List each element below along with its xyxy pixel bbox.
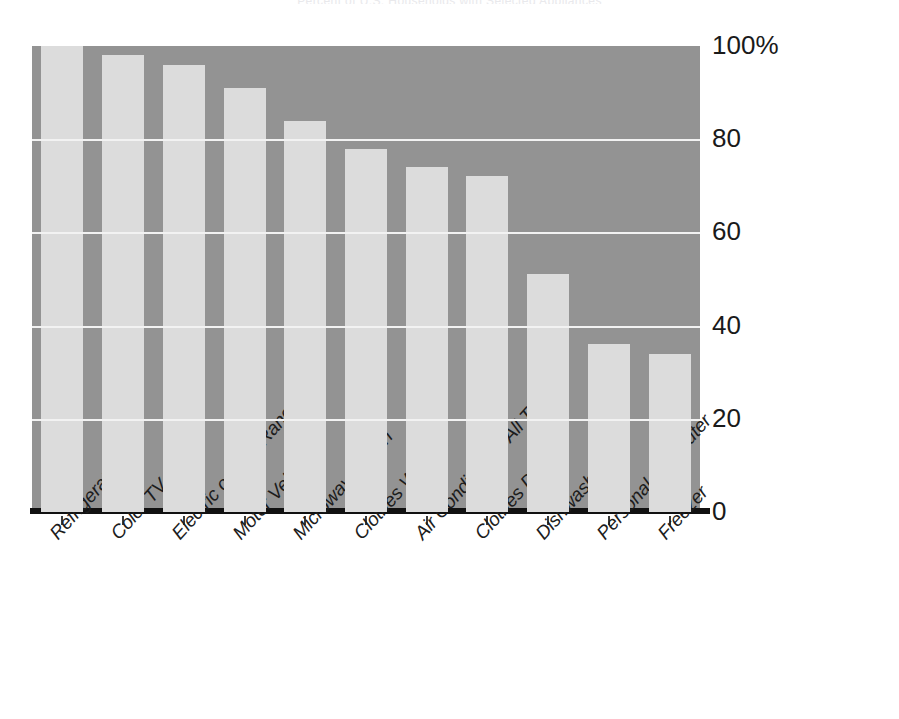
bar	[345, 149, 387, 512]
gridline-20	[32, 419, 700, 421]
bar	[163, 65, 205, 512]
bar	[406, 167, 448, 512]
bar	[588, 344, 630, 512]
gridline-40	[32, 326, 700, 328]
bar	[284, 121, 326, 512]
bar	[224, 88, 266, 512]
plot-area	[32, 46, 700, 512]
bar	[527, 274, 569, 512]
bar	[102, 55, 144, 512]
gridline-60	[32, 232, 700, 234]
bar	[649, 354, 691, 512]
bars-container	[32, 46, 700, 512]
gridline-80	[32, 139, 700, 141]
bar	[466, 176, 508, 512]
bar	[41, 46, 83, 512]
bar-chart: Percent of U.S. Households with Selected…	[0, 0, 899, 719]
